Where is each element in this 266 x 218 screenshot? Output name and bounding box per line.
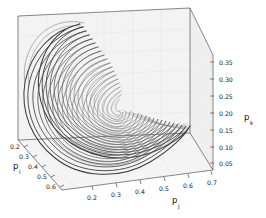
figure-3d-attractor: 0.05 0.10 0.15 0.20 0.25 0.30 0.35 0.2 0… bbox=[0, 0, 266, 218]
y-tick-label-1: 0.3 bbox=[19, 153, 29, 160]
x-tick-label-0: 0.2 bbox=[87, 194, 97, 201]
x-tick-1 bbox=[116, 183, 117, 187]
x-tick-label-1: 0.3 bbox=[111, 191, 121, 198]
x-tick-label-2: 0.4 bbox=[135, 188, 145, 195]
x-tick-5 bbox=[211, 171, 212, 175]
y-tick-label-0: 0.2 bbox=[10, 143, 20, 150]
x-axis-title: p bbox=[172, 195, 177, 205]
z-tick-label-6: 0.35 bbox=[219, 59, 233, 66]
plot-canvas: 0.05 0.10 0.15 0.20 0.25 0.30 0.35 0.2 0… bbox=[0, 0, 266, 218]
z-tick-label-2: 0.15 bbox=[219, 127, 233, 134]
x-axis-title-sub: j bbox=[177, 203, 180, 210]
y-tick-label-2: 0.4 bbox=[28, 163, 38, 170]
y-axis-title-sub: i bbox=[19, 169, 21, 175]
y-tick-label-3: 0.5 bbox=[37, 173, 47, 180]
x-tick-4 bbox=[188, 174, 189, 178]
y-axis-title: p bbox=[13, 161, 18, 171]
x-tick-label-3: 0.5 bbox=[159, 185, 169, 192]
z-axis-title-sub: k bbox=[250, 120, 254, 126]
z-tick-label-4: 0.25 bbox=[219, 93, 233, 100]
z-tick-label-0: 0.05 bbox=[219, 160, 233, 167]
x-tick-label-4: 0.6 bbox=[183, 182, 193, 189]
z-tick-label-3: 0.20 bbox=[219, 110, 233, 117]
z-tick-label-5: 0.30 bbox=[219, 76, 233, 83]
y-tick-label-4: 0.6 bbox=[46, 183, 56, 190]
x-tick-0 bbox=[92, 186, 93, 190]
z-tick-labels: 0.05 0.10 0.15 0.20 0.25 0.30 0.35 bbox=[219, 59, 233, 167]
x-tick-label-5: 0.7 bbox=[207, 179, 217, 186]
x-tick-3 bbox=[164, 177, 165, 181]
x-tick-2 bbox=[140, 180, 141, 184]
z-tick-label-1: 0.10 bbox=[219, 144, 233, 151]
z-axis-title: p bbox=[244, 112, 249, 122]
